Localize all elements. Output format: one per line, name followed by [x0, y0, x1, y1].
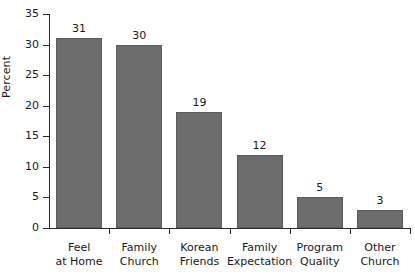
- y-tick-mark: [43, 228, 49, 229]
- y-tick-mark: [43, 136, 49, 137]
- y-tick-label: 35: [5, 8, 39, 19]
- y-tick-mark: [43, 106, 49, 107]
- y-tick-mark: [43, 167, 49, 168]
- y-tick-label: 5: [5, 191, 39, 202]
- bar-value-label: 12: [240, 140, 280, 151]
- y-tick-mark: [43, 45, 49, 46]
- x-tick-mark: [290, 229, 291, 234]
- x-tick-mark: [169, 229, 170, 234]
- x-tick-mark: [410, 229, 411, 234]
- y-tick-label: 0: [5, 222, 39, 233]
- y-tick-label: 10: [5, 161, 39, 172]
- bar-value-label: 30: [119, 30, 159, 41]
- bar: [297, 197, 343, 228]
- y-tick-mark: [43, 14, 49, 15]
- bar: [56, 38, 102, 228]
- bar: [237, 155, 283, 228]
- x-tick-mark: [230, 229, 231, 234]
- x-tick-mark: [350, 229, 351, 234]
- bar-value-label: 19: [179, 97, 219, 108]
- y-tick-mark: [43, 75, 49, 76]
- y-tick-label: 25: [5, 69, 39, 80]
- y-axis-line: [49, 14, 50, 229]
- bar-value-label: 3: [360, 195, 400, 206]
- bar: [116, 45, 162, 228]
- y-tick-label: 20: [5, 100, 39, 111]
- bar-chart: Percent 05101520253035 3130191253 Feel a…: [0, 0, 415, 280]
- bar-value-label: 5: [300, 182, 340, 193]
- bar: [357, 210, 403, 228]
- bar-value-label: 31: [59, 23, 99, 34]
- y-tick-label: 15: [5, 130, 39, 141]
- x-category-label: Other Church: [344, 241, 415, 269]
- y-tick-mark: [43, 197, 49, 198]
- y-tick-label: 30: [5, 39, 39, 50]
- bar: [176, 112, 222, 228]
- x-tick-mark: [109, 229, 110, 234]
